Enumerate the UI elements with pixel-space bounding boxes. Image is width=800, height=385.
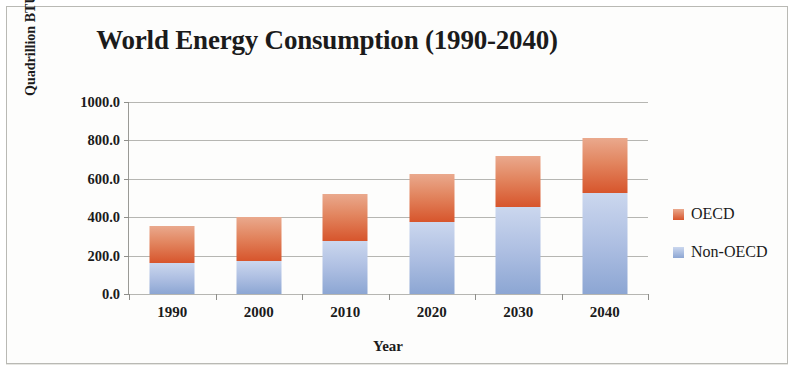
- x-tick-mark: [562, 294, 563, 300]
- chart-title: World Energy Consumption (1990-2040): [7, 25, 647, 56]
- y-axis-title: Quadrillion BTUs: [23, 0, 39, 117]
- bar-segment-non-oecd[interactable]: [409, 222, 454, 294]
- bars-layer: [129, 102, 648, 294]
- y-tick-label: 200.0: [87, 247, 120, 264]
- bar-segment-oecd[interactable]: [323, 194, 368, 241]
- bar-stack[interactable]: [236, 217, 281, 294]
- y-tick-label: 400.0: [87, 209, 120, 226]
- x-tick-mark: [302, 294, 303, 300]
- legend-label: Non-OECD: [691, 243, 767, 261]
- chart-legend: OECDNon-OECD: [673, 195, 793, 271]
- x-tick-label: 2000: [244, 304, 274, 321]
- x-tick-label: 2040: [590, 304, 620, 321]
- y-tick-label: 1000.0: [80, 94, 120, 111]
- bar-stack[interactable]: [496, 156, 541, 294]
- bar-group[interactable]: [216, 102, 303, 294]
- y-tick-label: 600.0: [87, 170, 120, 187]
- bar-stack[interactable]: [323, 194, 368, 294]
- legend-label: OECD: [691, 205, 735, 223]
- bar-segment-oecd[interactable]: [582, 138, 627, 194]
- bar-segment-non-oecd[interactable]: [496, 207, 541, 294]
- legend-item-nonoecd[interactable]: Non-OECD: [673, 233, 793, 271]
- x-tick-mark: [129, 294, 130, 300]
- bar-segment-oecd[interactable]: [150, 226, 195, 263]
- x-tick-label: 1990: [157, 304, 187, 321]
- bar-group[interactable]: [562, 102, 649, 294]
- bar-segment-oecd[interactable]: [236, 217, 281, 261]
- x-tick-label: 2020: [417, 304, 447, 321]
- x-tick-label: 2030: [503, 304, 533, 321]
- bar-group[interactable]: [389, 102, 476, 294]
- chart-frame: World Energy Consumption (1990-2040) Qua…: [6, 6, 788, 364]
- x-tick-mark: [475, 294, 476, 300]
- legend-swatch-oecd-icon: [673, 209, 684, 220]
- y-axis-title-label: Quadrillion BTUs: [23, 0, 39, 117]
- x-axis-title: Year: [128, 338, 648, 355]
- x-tick-label: 2010: [330, 304, 360, 321]
- bar-group[interactable]: [475, 102, 562, 294]
- bar-segment-oecd[interactable]: [409, 174, 454, 222]
- legend-item-oecd[interactable]: OECD: [673, 195, 793, 233]
- bar-segment-non-oecd[interactable]: [236, 261, 281, 294]
- bar-segment-non-oecd[interactable]: [323, 241, 368, 294]
- bar-segment-non-oecd[interactable]: [582, 193, 627, 294]
- x-tick-mark: [216, 294, 217, 300]
- bar-stack[interactable]: [150, 226, 195, 294]
- x-tick-mark: [648, 294, 649, 300]
- bar-segment-oecd[interactable]: [496, 156, 541, 207]
- legend-swatch-nonoecd-icon: [673, 247, 684, 258]
- bar-group[interactable]: [302, 102, 389, 294]
- y-tick-label: 0.0: [102, 286, 120, 303]
- y-tick-label: 800.0: [87, 132, 120, 149]
- bar-stack[interactable]: [582, 138, 627, 294]
- bar-segment-non-oecd[interactable]: [150, 263, 195, 294]
- bar-group[interactable]: [129, 102, 216, 294]
- plot-area: 1000.0800.0600.0400.0200.00.0 1990200020…: [128, 102, 648, 295]
- bar-stack[interactable]: [409, 174, 454, 294]
- x-tick-mark: [389, 294, 390, 300]
